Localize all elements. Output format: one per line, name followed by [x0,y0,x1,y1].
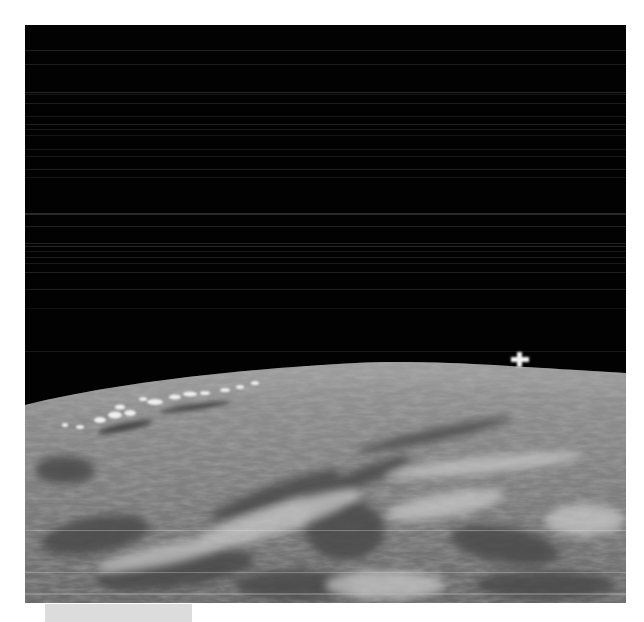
orbital-photo-canvas [25,25,626,603]
caption-placeholder [45,604,192,622]
earth-surface [25,355,626,603]
orbital-photo [25,25,626,603]
